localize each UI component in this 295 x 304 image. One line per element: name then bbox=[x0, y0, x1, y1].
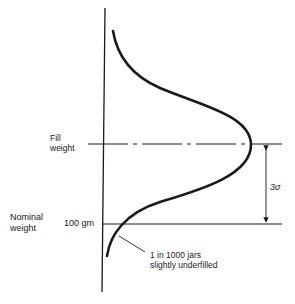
vertical-axis bbox=[102, 8, 105, 292]
nominal-weight-label-line1: Nominal bbox=[10, 212, 43, 223]
nominal-value-label: 100 gm bbox=[64, 218, 94, 228]
underfill-annotation-line2: slightly underfilled bbox=[150, 260, 218, 270]
underfill-annotation-line1: 1 in 1000 jars bbox=[150, 250, 218, 260]
nominal-weight-label: Nominal weight bbox=[10, 212, 43, 234]
fill-weight-label-line1: Fill bbox=[50, 133, 75, 143]
fill-weight-label: Fill weight bbox=[50, 133, 75, 153]
sigma-label: 3σ bbox=[270, 182, 280, 192]
underfill-annotation: 1 in 1000 jars slightly underfilled bbox=[150, 250, 218, 270]
fill-weight-label-line2: weight bbox=[50, 143, 75, 153]
nominal-weight-label-line2: weight bbox=[10, 223, 43, 234]
diagram-canvas bbox=[0, 0, 295, 304]
annotation-leader bbox=[119, 236, 145, 252]
